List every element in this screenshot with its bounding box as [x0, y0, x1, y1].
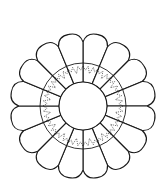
dresden-plate-drawing: [0, 0, 166, 187]
center-circle: [59, 82, 107, 130]
